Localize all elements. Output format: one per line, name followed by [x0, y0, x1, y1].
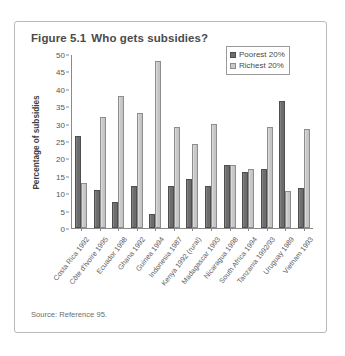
bar-richest[interactable]	[211, 124, 217, 228]
bar-group	[257, 55, 276, 228]
y-axis-tick-label: 5	[61, 207, 65, 216]
bar-group	[109, 55, 128, 228]
bar-group	[91, 55, 110, 228]
figure-panel: Figure 5.1Who gets subsidies? Percentage…	[14, 21, 327, 333]
bar-group	[239, 55, 258, 228]
y-axis-tick-mark	[66, 107, 69, 108]
bar-richest[interactable]	[248, 169, 254, 228]
y-axis-tick-mark	[66, 211, 69, 212]
y-axis-tick-label: 20	[56, 155, 65, 164]
source-note: Source: Reference 95.	[31, 310, 107, 319]
y-axis-tick-mark	[66, 124, 69, 125]
bar-group	[146, 55, 165, 228]
x-axis-labels: Costa Rica 1992Côte d'Ivoire 1995Ecuador…	[71, 231, 313, 301]
bar-richest[interactable]	[267, 127, 273, 228]
y-axis-tick-label: 35	[56, 103, 65, 112]
bar-groups	[72, 55, 313, 228]
bar-richest[interactable]	[192, 144, 198, 228]
y-axis-tick-mark	[66, 194, 69, 195]
figure-title: Figure 5.1Who gets subsidies?	[31, 32, 208, 44]
bar-group	[220, 55, 239, 228]
bar-richest[interactable]	[155, 61, 161, 228]
bar-richest[interactable]	[81, 183, 87, 228]
y-axis-tick-mark	[66, 176, 69, 177]
bar-group	[294, 55, 313, 228]
y-axis-tick-mark	[66, 142, 69, 143]
y-axis-tick-label: 40	[56, 85, 65, 94]
y-axis-tick-mark	[66, 55, 69, 56]
bar-richest[interactable]	[118, 96, 124, 228]
chart-axes	[71, 55, 313, 229]
y-axis-tick-mark	[66, 229, 69, 230]
bar-richest[interactable]	[174, 127, 180, 228]
legend-label-poorest: Poorest 20%	[239, 50, 285, 59]
bar-group	[128, 55, 147, 228]
chart-plot-area: Percentage of subsidies 0510152025303540…	[31, 55, 313, 300]
bar-richest[interactable]	[137, 113, 143, 228]
legend-item-poorest: Poorest 20%	[230, 49, 285, 60]
y-axis-tick-label: 45	[56, 68, 65, 77]
y-axis-tick-mark	[66, 159, 69, 160]
bar-group	[276, 55, 295, 228]
bar-group	[183, 55, 202, 228]
y-axis-ticks: 05101520253035404550	[43, 55, 69, 229]
y-axis-tick-label: 15	[56, 172, 65, 181]
bar-richest[interactable]	[100, 117, 106, 228]
bar-richest[interactable]	[285, 191, 291, 228]
y-axis-tick-label: 0	[61, 225, 65, 234]
chart-legend: Poorest 20% Richest 20%	[226, 46, 290, 75]
bar-group	[165, 55, 184, 228]
y-axis-title-text: Percentage of subsidies	[32, 95, 41, 189]
y-axis-tick-label: 30	[56, 120, 65, 129]
y-axis-tick-mark	[66, 72, 69, 73]
bar-group	[202, 55, 221, 228]
legend-item-richest: Richest 20%	[230, 60, 285, 71]
y-axis-tick-label: 50	[56, 51, 65, 60]
y-axis-tick-label: 25	[56, 138, 65, 147]
bar-group	[72, 55, 91, 228]
y-axis-title: Percentage of subsidies	[29, 55, 43, 229]
bar-richest[interactable]	[230, 165, 236, 228]
bar-richest[interactable]	[304, 129, 310, 228]
legend-label-richest: Richest 20%	[239, 61, 284, 70]
y-axis-tick-mark	[66, 89, 69, 90]
figure-number: Figure 5.1	[31, 32, 86, 44]
legend-swatch-poorest-icon	[230, 52, 236, 58]
legend-swatch-richest-icon	[230, 63, 236, 69]
y-axis-tick-label: 10	[56, 190, 65, 199]
figure-title-text: Who gets subsidies?	[91, 32, 208, 44]
